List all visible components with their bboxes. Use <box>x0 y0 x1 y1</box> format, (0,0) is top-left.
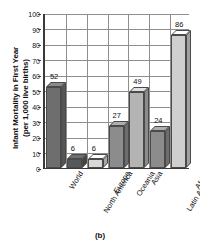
y-axis-tick-mark <box>38 76 41 77</box>
bar-value-label: 24 <box>154 117 162 125</box>
bar-front-face <box>109 126 124 168</box>
bar <box>46 87 61 168</box>
bar-front-face <box>67 159 82 168</box>
bar-front-face <box>88 159 103 168</box>
y-axis-tick-label: 10 <box>18 150 40 157</box>
y-axis-tick-label: 50 <box>18 88 40 95</box>
x-axis-category-label: Africa <box>194 170 200 191</box>
y-axis-tick-mark <box>38 122 41 123</box>
bar-series: 526627492486 <box>45 14 189 168</box>
figure-panel-b: Infant Mortality in First Year (per 1,00… <box>0 0 200 246</box>
y-axis-tick-mark <box>38 153 41 154</box>
bar-value-label: 6 <box>71 145 75 153</box>
bar-side-face <box>124 121 129 168</box>
x-axis-category-labels: WorldNorth AmericaEuropeOceaniaAsiaLatin… <box>43 170 189 232</box>
bar <box>67 159 82 168</box>
bar-side-face <box>144 87 149 168</box>
y-axis-tick-mark <box>38 107 41 108</box>
plot-area: 526627492486 0102030405060708090100 <box>43 14 189 169</box>
y-axis-tick-label: 40 <box>18 104 40 111</box>
y-axis-tick-label: 90 <box>18 26 40 33</box>
bar-front-face <box>46 87 61 168</box>
y-axis-tick-label: 100 <box>18 11 40 18</box>
x-axis-category-label: World <box>69 170 87 191</box>
y-axis-tick-label: 0 <box>18 166 40 173</box>
bar <box>88 159 103 168</box>
figure-caption: (b) <box>0 231 200 240</box>
x-axis-category-label-line: World <box>69 170 87 191</box>
bar-value-label: 6 <box>92 145 96 153</box>
y-axis-tick-mark <box>38 45 41 46</box>
bar-value-label: 27 <box>113 112 121 120</box>
y-axis-tick-label: 30 <box>18 119 40 126</box>
plot-frame: 526627492486 <box>43 14 189 169</box>
y-axis-tick-mark <box>38 169 41 170</box>
bar-side-face <box>165 126 170 168</box>
y-axis-tick-label: 70 <box>18 57 40 64</box>
y-axis-tick-label: 80 <box>18 42 40 49</box>
y-axis-tick-label: 20 <box>18 135 40 142</box>
bar-side-face <box>186 30 191 168</box>
y-axis-tick-mark <box>38 91 41 92</box>
x-axis-category-label-line: Africa <box>194 170 200 191</box>
y-axis-tick-label: 60 <box>18 73 40 80</box>
bar-front-face <box>171 35 186 168</box>
bar-value-label: 86 <box>175 21 183 29</box>
bar <box>171 35 186 168</box>
bar-side-face <box>61 82 66 168</box>
bar-value-label: 49 <box>133 78 141 86</box>
bar <box>150 131 165 168</box>
bar-front-face <box>129 92 144 168</box>
y-axis-tick-mark <box>38 138 41 139</box>
bar <box>109 126 124 168</box>
y-axis-tick-mark <box>38 29 41 30</box>
bar <box>129 92 144 168</box>
y-axis-tick-mark <box>38 14 41 15</box>
bar-value-label: 52 <box>50 73 58 81</box>
y-axis-tick-mark <box>38 60 41 61</box>
bar-front-face <box>150 131 165 168</box>
